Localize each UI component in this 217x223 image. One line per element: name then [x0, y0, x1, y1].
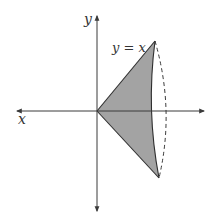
- x-axis-label: x: [18, 111, 26, 127]
- diagram-canvas: y x y = x: [0, 0, 217, 223]
- shaded-region: [97, 41, 159, 178]
- back-edge-dashed-curve: [155, 41, 166, 178]
- curve-label: y = x: [111, 40, 147, 55]
- y-axis-label: y: [83, 11, 93, 27]
